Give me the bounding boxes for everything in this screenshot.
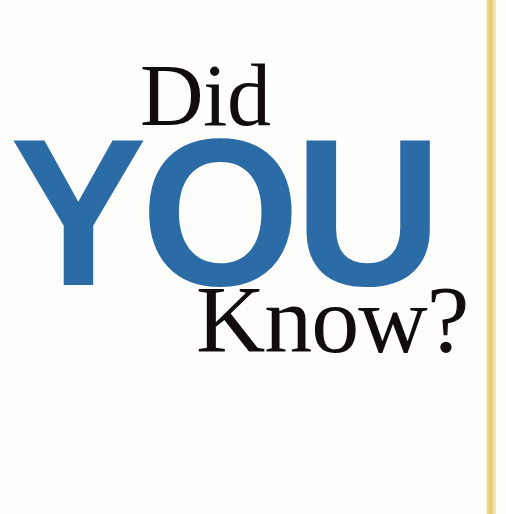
gold-vertical-rule [486, 0, 496, 514]
headline-block: Did YOU Know? [0, 0, 486, 514]
headline-word-know: Know? [196, 272, 468, 368]
page-canvas: Did YOU Know? [0, 0, 506, 514]
page-right-margin [496, 0, 506, 514]
